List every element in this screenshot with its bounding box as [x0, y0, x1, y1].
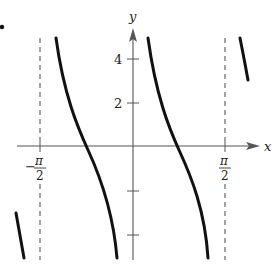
curve-branch-right-partial	[240, 38, 248, 80]
curve-branch-2	[148, 38, 208, 258]
svg-text:π: π	[219, 154, 229, 168]
svg-text:π: π	[34, 154, 44, 168]
bullet-dot	[0, 25, 4, 29]
y-axis-label: y	[128, 9, 137, 24]
y-tick-label-2: 2	[114, 96, 122, 111]
chart-canvas: x y 4 2 − π 2 π 2	[0, 0, 275, 272]
curve-branch-left-partial	[16, 213, 24, 258]
y-tick-label-4: 4	[114, 52, 122, 67]
svg-text:2: 2	[36, 169, 44, 183]
curve-branch-1	[56, 38, 117, 258]
x-axis-label: x	[264, 139, 272, 154]
x-tick-label-pi-over-2: π 2	[219, 154, 231, 183]
svg-text:2: 2	[221, 169, 229, 183]
x-tick-label-neg-pi-over-2: − π 2	[25, 154, 46, 183]
